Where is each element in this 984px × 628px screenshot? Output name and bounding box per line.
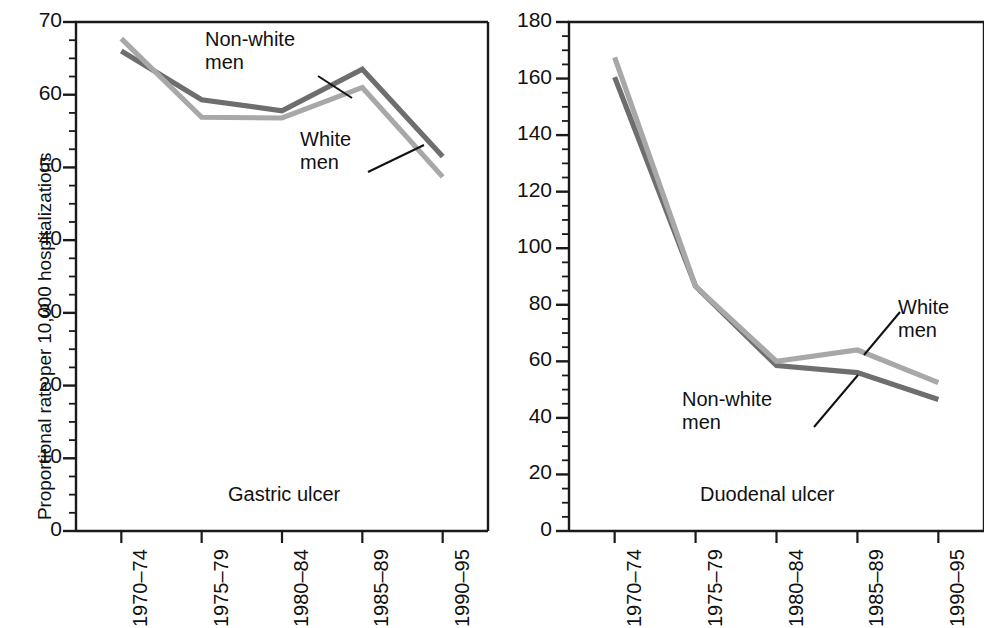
annotation-white-men-duodenal: White men [898,296,949,342]
y-tick-label: 40 [0,226,62,250]
y-tick-label: 180 [480,8,552,32]
panel-caption-duodenal: Duodenal ulcer [700,483,835,506]
x-tick-label: 1990–95 [451,549,474,627]
x-tick-label: 1980–84 [290,549,313,627]
panel-gastric-ulcer: Proportional rate per 10,000 hospitaliza… [0,0,492,628]
x-tick-label: 1975–79 [704,549,727,627]
panel-caption-gastric: Gastric ulcer [228,483,340,506]
annotation-non-white-men-duodenal: Non-white men [682,388,772,434]
annotation-white-men-gastric: White men [300,128,351,174]
x-tick-label: 1985–89 [865,549,888,627]
y-tick-label: 70 [0,8,62,32]
y-tick-label: 20 [480,460,552,484]
annotation-line1: Non-white [682,388,772,410]
annotation-line1: White [898,296,949,318]
y-tick-label: 40 [480,404,552,428]
panel-duodenal-ulcer: Duodenal ulcer White men Non-white men 0… [492,0,984,628]
y-tick-label: 80 [480,291,552,315]
annotation-line1: Non-white [205,28,295,50]
y-tick-label: 140 [480,121,552,145]
y-tick-label: 30 [0,299,62,323]
x-tick-label: 1985–89 [370,549,393,627]
annotation-line2: men [300,151,351,174]
y-tick-label: 0 [480,517,552,541]
y-tick-label: 60 [0,81,62,105]
x-tick-label: 1980–84 [785,549,808,627]
annotation-line1: White [300,128,351,150]
y-tick-label: 0 [0,517,62,541]
y-tick-label: 10 [0,444,62,468]
plot-area-gastric [0,0,492,628]
y-tick-label: 60 [480,347,552,371]
x-tick-label: 1975–79 [210,549,233,627]
y-tick-label: 160 [480,65,552,89]
y-tick-label: 100 [480,234,552,258]
y-tick-label: 20 [0,372,62,396]
x-tick-label: 1970–74 [623,549,646,627]
annotation-line2: men [682,411,772,434]
x-tick-label: 1970–74 [129,549,152,627]
annotation-line2: men [898,319,949,342]
figure-two-panel-line-charts: Proportional rate per 10,000 hospitaliza… [0,0,984,628]
annotation-line2: men [205,51,295,74]
y-tick-label: 50 [0,153,62,177]
y-tick-label: 120 [480,178,552,202]
x-tick-label: 1990–95 [946,549,969,627]
annotation-non-white-men-gastric: Non-white men [205,28,295,74]
